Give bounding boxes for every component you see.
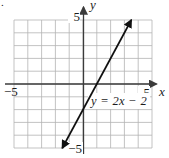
graph-figure: . y x 5 −5 5 −5 y = 2x − 2: [0, 0, 169, 158]
function-line: [62, 20, 131, 148]
function-line-canvas: [0, 0, 169, 158]
